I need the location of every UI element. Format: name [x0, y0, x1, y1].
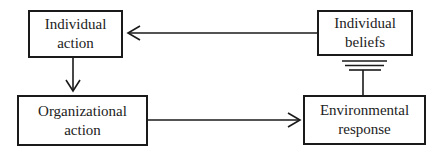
node-label-line2: action [64, 121, 101, 140]
node-label-line1: Individual [45, 15, 107, 34]
node-environmental-response: Environmental response [303, 95, 426, 145]
node-label-line1: Individual [334, 14, 396, 33]
node-label-line2: response [338, 120, 391, 139]
node-label-line1: Environmental [320, 101, 409, 120]
node-label-line1: Organizational [38, 102, 127, 121]
node-label-line2: action [57, 34, 94, 53]
barrier-environmental-to-beliefs [342, 61, 387, 95]
node-individual-beliefs: Individual beliefs [317, 10, 413, 56]
arrow-organizational-to-environmental [147, 113, 300, 127]
node-label-line2: beliefs [345, 33, 385, 52]
node-individual-action: Individual action [28, 10, 123, 58]
node-organizational-action: Organizational action [17, 95, 148, 146]
arrow-individual-to-organizational [66, 57, 80, 91]
arrow-beliefs-to-individual-action [128, 26, 317, 40]
